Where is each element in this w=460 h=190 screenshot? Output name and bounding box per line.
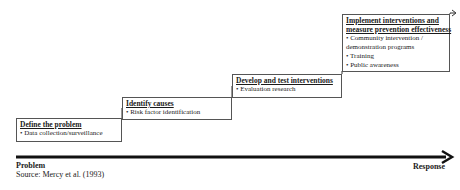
- step-item: • Community intervention /: [346, 34, 446, 43]
- step-item: • Training: [346, 52, 446, 61]
- step-item: • Data collection/surveillance: [20, 129, 118, 138]
- step-title: Identify causes: [126, 99, 228, 108]
- step-title: Define the problem: [20, 120, 118, 129]
- step-item: • Risk factor identification: [126, 108, 228, 117]
- step-title-line1: Implement interventions and: [346, 16, 446, 25]
- source-citation: Source: Mercy et al. (1993): [16, 170, 104, 179]
- step-identify-causes: Identify causes • Risk factor identifica…: [122, 97, 232, 120]
- problem-response-axis: [16, 151, 452, 163]
- step-title: Develop and test interventions: [236, 76, 338, 85]
- step-define-the-problem: Define the problem • Data collection/sur…: [16, 118, 122, 142]
- axis-start-label: Problem: [16, 161, 45, 170]
- step-implement-interventions: Implement interventions and measure prev…: [342, 14, 450, 72]
- step-develop-and-test-interventions: Develop and test interventions • Evaluat…: [232, 74, 342, 98]
- step-item: • Public awareness: [346, 61, 446, 70]
- axis-end-label: Response: [413, 162, 445, 171]
- step-title-line2: measure prevention effectiveness: [346, 25, 446, 34]
- step-item: • Evaluation research: [236, 85, 338, 94]
- step-item: demonstration programs: [346, 43, 446, 52]
